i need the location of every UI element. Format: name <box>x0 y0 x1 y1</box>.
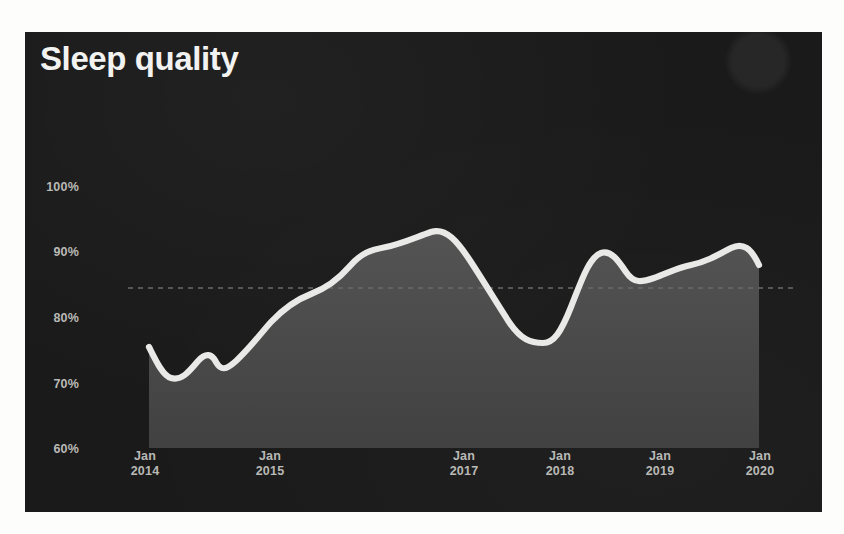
x-axis-tick-2015-year: 2015 <box>235 464 305 479</box>
x-axis-tick-2020: Jan 2020 <box>725 449 795 479</box>
x-axis-tick-2014-year: 2014 <box>110 464 180 479</box>
x-axis-tick-2015: Jan 2015 <box>235 449 305 479</box>
sleep-quality-chart-svg <box>25 32 822 512</box>
chart-area-fill <box>149 231 759 448</box>
x-axis-tick-2018-month: Jan <box>525 449 595 464</box>
x-axis-tick-2020-year: 2020 <box>725 464 795 479</box>
x-axis-tick-2014-month: Jan <box>110 449 180 464</box>
x-axis-tick-2017-month: Jan <box>429 449 499 464</box>
x-axis-tick-2014: Jan 2014 <box>110 449 180 479</box>
chart-plot-area: 100% 90% 80% 70% 60% <box>25 32 822 512</box>
x-axis-tick-2020-month: Jan <box>725 449 795 464</box>
x-axis-tick-2017: Jan 2017 <box>429 449 499 479</box>
sleep-quality-card: Sleep quality 100% 90% 80% 70% 60% <box>25 32 822 512</box>
x-axis-tick-2017-year: 2017 <box>429 464 499 479</box>
screenshot-root: Sleep quality 100% 90% 80% 70% 60% <box>0 0 844 534</box>
x-axis-tick-2019-year: 2019 <box>625 464 695 479</box>
x-axis-tick-2019-month: Jan <box>625 449 695 464</box>
x-axis-tick-2018: Jan 2018 <box>525 449 595 479</box>
x-axis-tick-2019: Jan 2019 <box>625 449 695 479</box>
x-axis-tick-2018-year: 2018 <box>525 464 595 479</box>
x-axis-tick-2015-month: Jan <box>235 449 305 464</box>
